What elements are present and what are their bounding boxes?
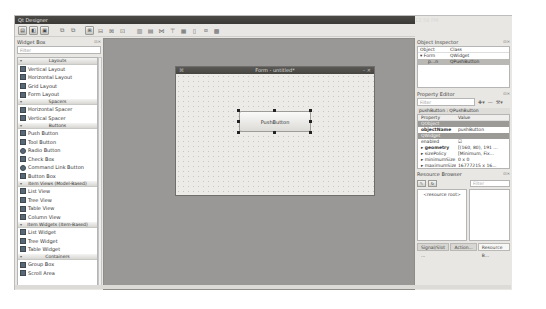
- redo-icon: ⧉: [71, 26, 75, 34]
- widget-vertical-spacer[interactable]: Vertical Spacer: [18, 114, 97, 123]
- push-button-icon: [20, 130, 26, 136]
- horizontal-spacer-icon: [20, 107, 26, 113]
- property-row-maximumsize[interactable]: ▸ maximumSize16777215 x 16...: [418, 163, 509, 169]
- resource-file-list[interactable]: [469, 189, 510, 241]
- tab-action-editor[interactable]: Action...: [450, 243, 476, 251]
- edit-resources-button[interactable]: ✎: [417, 180, 426, 187]
- save-form-button[interactable]: ▣: [40, 26, 49, 35]
- edit-buddies-button[interactable]: ⊠: [107, 26, 116, 35]
- form-titlebar[interactable]: ⌘ Form - untitled* – ✕: [176, 67, 374, 74]
- property-filter-input[interactable]: Filter: [417, 98, 475, 106]
- widget-table-view[interactable]: Table View: [18, 204, 97, 213]
- widget-tree-view[interactable]: Tree View: [18, 196, 97, 205]
- layout-grid-button[interactable]: ▦: [179, 26, 188, 35]
- layout-vertical-icon: ▤: [148, 27, 154, 34]
- resize-handle[interactable]: [309, 120, 312, 123]
- layout-vertical-button[interactable]: ▤: [146, 26, 155, 35]
- widget-filter-input[interactable]: Filter: [17, 46, 101, 54]
- resize-handle[interactable]: [237, 109, 240, 112]
- column-view-icon: [20, 214, 26, 220]
- grid-icon: ▦: [181, 27, 187, 34]
- form-push-button[interactable]: PushButton: [239, 111, 311, 132]
- widget-scroll-area[interactable]: Scroll Area: [18, 269, 97, 278]
- resource-filter-input[interactable]: Filter: [470, 180, 510, 187]
- vertical-spacer-icon: [20, 115, 26, 121]
- form-window[interactable]: ⌘ Form - untitled* – ✕ PushButton: [175, 66, 375, 196]
- undo-button[interactable]: ⧉: [57, 26, 66, 35]
- new-form-button[interactable]: ▤: [18, 26, 27, 35]
- widget-vertical-layout[interactable]: Vertical Layout: [18, 65, 97, 74]
- widget-button-box[interactable]: Button Box: [18, 172, 97, 181]
- widget-list-view[interactable]: List View: [18, 187, 97, 196]
- edit-widgets-button[interactable]: ⊞: [85, 26, 94, 35]
- form-layout-icon: ▯: [193, 27, 196, 34]
- resize-handle[interactable]: [273, 109, 276, 112]
- adjust-size-button[interactable]: ▩: [212, 26, 221, 35]
- layout-h-splitter-button[interactable]: ⋈: [157, 26, 166, 35]
- widget-table-widget[interactable]: Table Widget: [18, 245, 97, 254]
- resize-handle[interactable]: [237, 131, 240, 134]
- widget-box-title: Widget Box ⊡✕: [15, 38, 103, 46]
- widget-box-scrollbar[interactable]: [98, 57, 102, 287]
- resource-browser-title: Resource Browser ⊡✕: [415, 170, 512, 178]
- layout-horizontal-icon: ▥: [137, 27, 143, 34]
- layout-v-splitter-button[interactable]: ⊤: [168, 26, 177, 35]
- collapse-arrow-icon: ▾: [20, 99, 22, 106]
- category-buttons[interactable]: ▾Buttons: [18, 123, 97, 130]
- collapse-arrow-icon: ▾: [20, 222, 22, 229]
- dock-float-close-icon[interactable]: ⊡✕: [503, 38, 510, 46]
- form-window-menu-icon[interactable]: ⌘: [179, 67, 184, 74]
- widget-horizontal-layout[interactable]: Horizontal Layout: [18, 73, 97, 82]
- dock-float-close-icon[interactable]: ⊡✕: [503, 90, 510, 98]
- widget-grid-layout[interactable]: Grid Layout: [18, 82, 97, 91]
- resize-handle[interactable]: [309, 109, 312, 112]
- resize-handle[interactable]: [237, 120, 240, 123]
- widget-tree-widget[interactable]: Tree Widget: [18, 237, 97, 246]
- widget-command-link-button[interactable]: Command Link Button: [18, 163, 97, 172]
- resource-root-item[interactable]: <resource root>: [423, 192, 460, 197]
- category-item-widgets[interactable]: ▾Item Widgets (Item-Based): [18, 222, 97, 229]
- widget-list: ▾Layouts Vertical Layout Horizontal Layo…: [17, 57, 98, 287]
- adjust-size-icon: ▩: [214, 27, 220, 34]
- dock-float-close-icon[interactable]: ⊡✕: [94, 38, 101, 46]
- tab-signal-slot-editor[interactable]: Signal/Slot ...: [417, 243, 449, 251]
- resize-handle[interactable]: [273, 131, 276, 134]
- category-item-views[interactable]: ▾Item Views (Model-Based): [18, 181, 97, 188]
- widget-check-box[interactable]: Check Box: [18, 155, 97, 164]
- resize-handle[interactable]: [309, 131, 312, 134]
- tree-view-icon: [20, 197, 26, 203]
- category-containers[interactable]: ▾Containers: [18, 254, 97, 261]
- form-window-controls-icon[interactable]: – ✕: [363, 67, 371, 74]
- break-layout-button[interactable]: ⧈: [201, 26, 210, 35]
- widget-column-view[interactable]: Column View: [18, 213, 97, 222]
- edit-signals-slots-button[interactable]: ⊟: [96, 26, 105, 35]
- resource-tree[interactable]: <resource root>: [417, 189, 467, 241]
- widget-horizontal-spacer[interactable]: Horizontal Spacer: [18, 105, 97, 114]
- tab-resource-browser[interactable]: Resource B...: [478, 243, 510, 251]
- redo-button[interactable]: ⧉: [68, 26, 77, 35]
- category-spacers[interactable]: ▾Spacers: [18, 99, 97, 106]
- collapse-arrow-icon: ▾: [20, 58, 22, 65]
- add-property-icon[interactable]: ✚▾: [478, 99, 485, 105]
- dock-float-close-icon[interactable]: ⊡✕: [503, 170, 510, 178]
- scroll-area-icon: [20, 270, 26, 276]
- reload-resources-button[interactable]: ↻: [428, 180, 437, 187]
- widget-list-widget[interactable]: List Widget: [18, 228, 97, 237]
- category-layouts[interactable]: ▾Layouts: [18, 58, 97, 65]
- collapse-arrow-icon: ▾: [20, 181, 22, 188]
- tree-row-pushbutton[interactable]: p...n QPushButton: [418, 59, 509, 65]
- remove-property-icon[interactable]: —: [488, 99, 493, 105]
- form-title: Form - untitled*: [255, 67, 294, 73]
- widget-push-button[interactable]: Push Button: [18, 129, 97, 138]
- edit-tab-order-button[interactable]: ⊡: [118, 26, 127, 35]
- table-widget-icon: [20, 246, 26, 252]
- widget-group-box[interactable]: Group Box: [18, 260, 97, 269]
- form-canvas[interactable]: PushButton: [176, 74, 374, 195]
- widget-form-layout[interactable]: Form Layout: [18, 90, 97, 99]
- layout-form-button[interactable]: ▯: [190, 26, 199, 35]
- widget-radio-button[interactable]: Radio Button: [18, 146, 97, 155]
- configure-wrench-icon[interactable]: ⚒▾: [496, 99, 503, 105]
- open-form-button[interactable]: ◧: [29, 26, 38, 35]
- widget-tool-button[interactable]: Tool Button: [18, 138, 97, 147]
- layout-horizontal-button[interactable]: ▥: [135, 26, 144, 35]
